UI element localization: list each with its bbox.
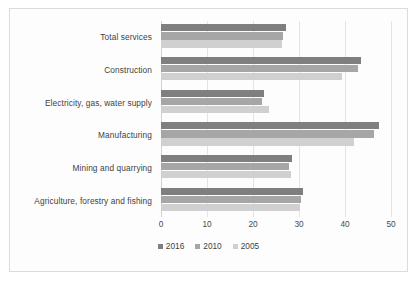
bar-2010 xyxy=(161,32,283,39)
x-axis-tick-labels: 01020304050 xyxy=(161,219,391,233)
chart-frame: Total servicesConstructionElectricity, g… xyxy=(9,8,408,272)
legend-item-2016[interactable]: 2016 xyxy=(158,241,184,251)
bar-group xyxy=(161,57,391,83)
plot-area: Total servicesConstructionElectricity, g… xyxy=(161,21,391,217)
legend-label: 2005 xyxy=(241,241,259,251)
bar-2010 xyxy=(161,65,358,72)
bar-2010 xyxy=(161,98,262,105)
category-label: Agriculture, forestry and fishing xyxy=(34,196,152,206)
bar-2005 xyxy=(161,171,291,178)
bar-2005 xyxy=(161,40,282,47)
bar-2005 xyxy=(161,73,342,80)
bar-group xyxy=(161,24,391,50)
bar-group xyxy=(161,155,391,181)
bar-2005 xyxy=(161,138,354,145)
category-row: Construction xyxy=(161,54,391,87)
legend-item-2005[interactable]: 2005 xyxy=(233,241,259,251)
bar-2016 xyxy=(161,90,264,97)
x-tick-30: 30 xyxy=(294,219,303,229)
category-label: Manufacturing xyxy=(98,130,152,140)
category-row: Manufacturing xyxy=(161,119,391,152)
x-tick-40: 40 xyxy=(340,219,349,229)
x-tick-50: 50 xyxy=(386,219,395,229)
bar-2016 xyxy=(161,122,379,129)
category-label: Electricity, gas, water supply xyxy=(45,98,152,108)
x-tick-0: 0 xyxy=(159,219,164,229)
legend-swatch-icon xyxy=(158,244,163,249)
legend-swatch-icon xyxy=(233,244,238,249)
legend-label: 2010 xyxy=(203,241,221,251)
category-label: Construction xyxy=(104,65,152,75)
category-label: Total services xyxy=(100,32,152,42)
bar-2010 xyxy=(161,196,301,203)
bar-group xyxy=(161,188,391,214)
bar-2016 xyxy=(161,155,292,162)
category-row: Total services xyxy=(161,21,391,54)
legend-label: 2016 xyxy=(166,241,184,251)
category-row: Agriculture, forestry and fishing xyxy=(161,184,391,217)
bar-2010 xyxy=(161,163,289,170)
bar-2016 xyxy=(161,57,361,64)
category-label: Mining and quarrying xyxy=(73,163,152,173)
bar-2005 xyxy=(161,106,269,113)
category-row: Mining and quarrying xyxy=(161,152,391,185)
gridline-50 xyxy=(391,21,392,217)
bar-2016 xyxy=(161,24,286,31)
chart-legend: 201620102005 xyxy=(10,241,407,251)
bar-2005 xyxy=(161,204,300,211)
legend-item-2010[interactable]: 2010 xyxy=(195,241,221,251)
legend-swatch-icon xyxy=(195,244,200,249)
bar-2010 xyxy=(161,130,374,137)
bar-2016 xyxy=(161,188,303,195)
x-tick-20: 20 xyxy=(248,219,257,229)
category-row: Electricity, gas, water supply xyxy=(161,86,391,119)
bar-group xyxy=(161,122,391,148)
x-tick-10: 10 xyxy=(202,219,211,229)
bar-group xyxy=(161,90,391,116)
